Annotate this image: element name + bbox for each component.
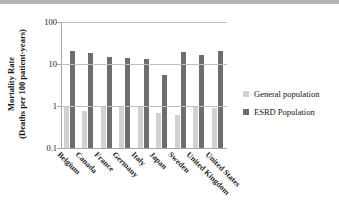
legend-item-label: General population <box>254 89 319 99</box>
bar <box>82 111 87 148</box>
y-tick-label-10: 10 <box>49 59 58 69</box>
bar-group <box>63 22 79 148</box>
bar-group <box>155 22 171 148</box>
x-axis-category-label: Japan <box>148 150 169 171</box>
bar <box>218 51 223 148</box>
plot-area <box>61 22 227 148</box>
gridline-100 <box>61 22 227 23</box>
bar <box>119 106 124 148</box>
bar <box>144 59 149 148</box>
bar <box>107 57 112 148</box>
legend-item-label: ESRD Population <box>254 107 315 117</box>
bar <box>70 51 75 148</box>
legend-swatch-icon <box>243 109 249 115</box>
bar-group <box>137 22 153 148</box>
bar-group <box>192 22 208 148</box>
bar-group <box>211 22 227 148</box>
bar <box>193 106 198 148</box>
bar <box>101 107 106 148</box>
bar-group <box>81 22 97 148</box>
bar <box>162 75 167 148</box>
bar <box>175 115 180 148</box>
legend-swatch-icon <box>243 91 249 97</box>
gridline-0.1 <box>61 148 227 149</box>
bar <box>88 53 93 148</box>
bar-group <box>100 22 116 148</box>
bar <box>64 106 69 148</box>
bar <box>125 58 130 148</box>
x-axis-category-labels: BelgiumCanadaFranceGermanyItalyJapanSwed… <box>61 150 236 212</box>
bar <box>212 108 217 148</box>
bar-groups <box>61 22 227 148</box>
bar <box>138 107 143 148</box>
y-tick-label-0.1: 0.1 <box>46 143 57 153</box>
gridline-1 <box>61 106 227 107</box>
gridline-10 <box>61 64 227 65</box>
y-axis-title-line-2: (Deaths per 100 patient-years) <box>16 29 27 139</box>
top-border-strip <box>0 0 339 4</box>
y-tick-mark-0.1 <box>57 148 61 149</box>
y-axis-tick-labels: 1001010.1 <box>30 22 57 148</box>
mortality-rate-bar-chart: Mortality Rate (Deaths per 100 patient-y… <box>0 0 339 215</box>
legend-item: ESRD Population <box>243 106 338 117</box>
bar-group <box>174 22 190 148</box>
bar <box>181 52 186 148</box>
y-tick-label-100: 100 <box>44 17 57 27</box>
bar <box>156 113 161 148</box>
bar-group <box>118 22 134 148</box>
legend-item: General population <box>243 88 338 99</box>
chart-legend: General populationESRD Population <box>243 88 338 124</box>
bar <box>199 55 204 148</box>
y-tick-mark-10 <box>57 64 61 65</box>
y-tick-mark-1 <box>57 106 61 107</box>
y-axis-title-line-1: Mortality Rate <box>6 29 17 139</box>
y-axis-title: Mortality Rate (Deaths per 100 patient-y… <box>2 18 30 150</box>
y-tick-mark-100 <box>57 22 61 23</box>
